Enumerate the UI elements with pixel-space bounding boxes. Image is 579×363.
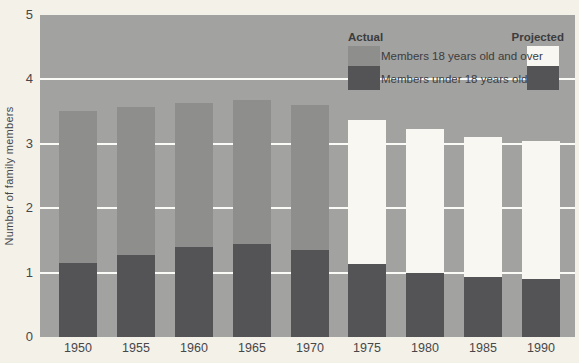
y-tick-label-5: 5 — [0, 8, 33, 22]
bar-1980-segment-under18 — [406, 273, 444, 337]
y-tick-label-0: 0 — [0, 330, 33, 344]
x-tick-label-1990: 1990 — [511, 341, 571, 355]
bar-1990 — [522, 141, 560, 337]
bar-1970-segment-under18 — [291, 250, 329, 337]
x-tick-label-1965: 1965 — [222, 341, 282, 355]
bar-1985-segment-over18 — [464, 137, 502, 277]
bar-1950 — [59, 111, 97, 337]
bar-1950-segment-under18 — [59, 263, 97, 337]
x-tick-label-1960: 1960 — [164, 341, 224, 355]
bar-1975 — [348, 120, 386, 337]
y-tick-label-1: 1 — [0, 266, 33, 280]
bar-1980-segment-over18 — [406, 129, 444, 273]
bar-1965 — [233, 100, 271, 337]
bar-1965-segment-under18 — [233, 244, 271, 337]
legend-over18-label: Members 18 years old and over — [381, 50, 526, 62]
bar-1970 — [291, 105, 329, 337]
bar-1950-segment-over18 — [59, 111, 97, 263]
legend-projected-under18-swatch — [527, 66, 559, 90]
bar-1960-segment-under18 — [175, 247, 213, 337]
bar-1955-segment-under18 — [117, 255, 155, 337]
bar-1985-segment-under18 — [464, 277, 502, 337]
x-tick-label-1985: 1985 — [453, 341, 513, 355]
bar-1960 — [175, 103, 213, 337]
bar-1990-segment-over18 — [522, 141, 560, 279]
legend-actual-swatch — [348, 46, 380, 90]
bar-1990-segment-under18 — [522, 279, 560, 337]
legend-under18-label: Members under 18 years old — [381, 73, 526, 85]
bar-1975-segment-under18 — [348, 264, 386, 337]
y-tick-label-2: 2 — [0, 201, 33, 215]
bar-1980 — [406, 129, 444, 337]
y-tick-label-4: 4 — [0, 72, 33, 86]
bar-1975-segment-over18 — [348, 120, 386, 264]
x-tick-label-1955: 1955 — [106, 341, 166, 355]
legend-actual-label: Actual — [348, 31, 383, 43]
legend-actual-under18-swatch — [348, 66, 380, 90]
y-axis-title: Number of family members — [3, 106, 15, 245]
legend-actual-over18-swatch — [348, 46, 380, 66]
legend-projected-label: Projected — [512, 31, 564, 43]
bar-1985 — [464, 137, 502, 337]
bar-1955 — [117, 107, 155, 337]
family-size-chart: Number of family members 012345 Actual P… — [0, 0, 579, 363]
y-tick-label-3: 3 — [0, 137, 33, 151]
x-tick-label-1975: 1975 — [337, 341, 397, 355]
x-tick-label-1980: 1980 — [395, 341, 455, 355]
bar-1960-segment-over18 — [175, 103, 213, 247]
bar-1965-segment-over18 — [233, 100, 271, 244]
plot-area: Actual Projected Members 18 years old an… — [40, 15, 575, 337]
bar-1955-segment-over18 — [117, 107, 155, 255]
bar-1970-segment-over18 — [291, 105, 329, 250]
x-tick-label-1970: 1970 — [280, 341, 340, 355]
x-tick-label-1950: 1950 — [48, 341, 108, 355]
